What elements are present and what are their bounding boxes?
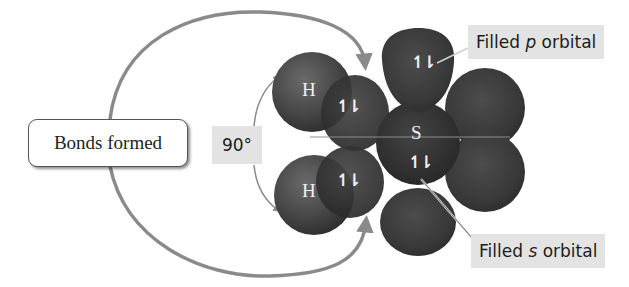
electron-pair-s-orbital: ↿⇂ [408, 152, 431, 172]
bonds-formed-text: Bonds formed [54, 132, 162, 154]
bonds-formed-label: Bonds formed [28, 119, 188, 167]
callout-orbital-letter: s [528, 241, 537, 261]
electron-pair-p-orbital: ↿⇂ [411, 52, 434, 72]
bond-angle-label: 90° [212, 126, 262, 164]
hydrogen-label-top: H [302, 79, 316, 101]
hydrogen-label-bottom: H [302, 180, 316, 202]
bond-angle-text: 90° [222, 135, 252, 155]
angle-arc-bottom [254, 165, 278, 210]
filled-s-orbital-callout: Filled s orbital [471, 234, 605, 268]
callout-text: orbital [537, 241, 597, 261]
callout-orbital-letter: p [525, 32, 536, 52]
filled-p-orbital-callout: Filled p orbital [468, 25, 604, 59]
electron-pair-bond-bottom: ↿⇂ [336, 170, 359, 190]
h2s-orbital-diagram: ↿⇂ ↿⇂ ↿⇂ ↿⇂ H H S Bonds formed 90° Fille… [0, 0, 629, 287]
sulfur-label: S [411, 122, 422, 144]
electron-pair-bond-top: ↿⇂ [336, 96, 359, 116]
p-orbital-lobe-bottom [380, 188, 456, 256]
callout-text: orbital [536, 32, 596, 52]
callout-text: Filled [476, 32, 525, 52]
callout-text: Filled [479, 241, 528, 261]
